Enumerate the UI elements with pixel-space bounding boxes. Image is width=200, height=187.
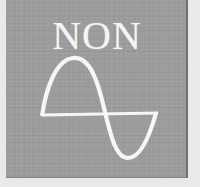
panel-bottom-edge-rule [6, 177, 188, 178]
halftone-panel: NON [6, 0, 188, 178]
panel-right-edge-rule [186, 0, 188, 178]
baseline-axis [42, 113, 158, 115]
sine-wave-graphic [6, 0, 188, 178]
sine-wave-curve [42, 58, 156, 158]
figure-root: NON [0, 0, 200, 187]
